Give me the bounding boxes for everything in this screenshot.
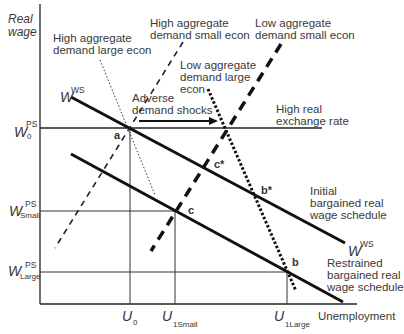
point-c: c [188, 204, 194, 216]
w0-sub: 0 [27, 132, 31, 141]
high-rer-label-line2: exchange rate [276, 115, 349, 127]
x-axis-label: Unemployment [318, 310, 395, 322]
u0-symbol: U [122, 308, 132, 324]
ws-restrained-curve [71, 154, 343, 302]
y-axis-label-line1: Real [8, 13, 33, 25]
u1-small-symbol: U [162, 308, 172, 324]
w0-sup: PS [26, 119, 37, 129]
high-rer-label-line1: High real [276, 103, 322, 115]
restrained-ws-label-line1: Restrained [327, 257, 383, 269]
w-small-sup: PS [25, 199, 36, 209]
y-axis-label-line2: wage [8, 26, 37, 38]
u0-sub: 0 [133, 318, 137, 327]
w-small-sub: Small [20, 211, 40, 220]
initial-ws-label-line2: bargained real [310, 197, 384, 209]
low-ad-large-label-line2: demand large [180, 71, 250, 83]
low-ad-small-label-line2: demand small econ [255, 29, 355, 41]
low-ad-large-label-line3: econ [180, 83, 205, 95]
low-ad-large-label-line1: Low aggregate [180, 59, 256, 71]
high-ad-large-label-line1: High aggregate [53, 32, 132, 44]
initial-ws-label-line1: Initial [310, 185, 337, 197]
ws-end-sup: WS [360, 239, 374, 249]
adverse-shocks-label-line1: Adverse [132, 92, 174, 104]
adverse-shock-arrowhead [209, 117, 218, 125]
initial-ws-label-line3: wage schedule [310, 209, 387, 221]
point-b: b [292, 256, 299, 268]
ws-upper-sup: WS [71, 85, 85, 95]
restrained-ws-label-line3: wage schedule [327, 281, 404, 293]
point-a: a [114, 129, 120, 141]
point-c-star: c* [214, 158, 224, 170]
w-large-sup: PS [25, 260, 36, 270]
point-b-star: b* [261, 184, 272, 196]
restrained-ws-label-line2: bargained real [327, 269, 401, 281]
high-ad-large-label-line2: demand large econ [53, 44, 151, 56]
high-ad-small-label-line1: High aggregate [150, 17, 229, 29]
adverse-shocks-label-line2: demand shocks [132, 104, 213, 116]
u1-large-symbol: U [274, 308, 284, 324]
u1-small-sub: 1Small [173, 320, 197, 329]
u1-large-sub: 1Large [285, 320, 310, 329]
low-ad-small-label-line1: Low aggregate [255, 17, 331, 29]
w-large-sub: Large [20, 272, 40, 281]
high-ad-small-label-line2: demand small econ [150, 29, 250, 41]
